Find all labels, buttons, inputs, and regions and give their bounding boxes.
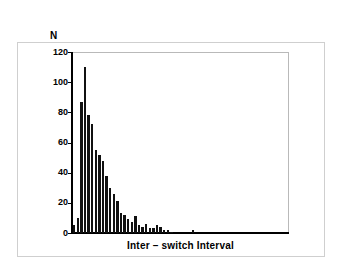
bar [192, 230, 194, 233]
y-tick-mark [68, 143, 72, 144]
y-axis-tick-labels: 020406080100120 [20, 0, 68, 271]
bar [84, 67, 86, 233]
bar [167, 230, 169, 233]
bar [163, 230, 165, 233]
bar [134, 216, 136, 233]
y-tick-label: 60 [58, 138, 68, 147]
bar [109, 188, 111, 233]
y-tick-label: 100 [53, 78, 68, 87]
bar [145, 224, 147, 233]
y-tick-label: 40 [58, 168, 68, 177]
bar [105, 176, 107, 233]
bar [152, 228, 154, 233]
x-axis-title: Inter – switch Interval [72, 240, 289, 251]
y-tick-label: 20 [58, 198, 68, 207]
figure: N 020406080100120 Inter – switch Interva… [0, 0, 348, 271]
y-tick-mark [68, 82, 72, 83]
bar-series [73, 52, 289, 233]
bar [95, 150, 97, 233]
bar [141, 227, 143, 233]
bar [87, 115, 89, 233]
y-tick-mark [68, 52, 72, 53]
y-tick-label: 80 [58, 108, 68, 117]
bar [120, 213, 122, 233]
bar [73, 225, 75, 233]
bar [113, 194, 115, 233]
bar [116, 201, 118, 233]
bar [149, 228, 151, 233]
y-tick-mark [68, 233, 72, 234]
bar [127, 219, 129, 233]
y-tick-mark [68, 112, 72, 113]
bar [170, 232, 172, 234]
bar [102, 161, 104, 233]
y-tick-mark [68, 203, 72, 204]
bar [98, 155, 100, 233]
bar [131, 222, 133, 233]
y-tick-mark [68, 173, 72, 174]
bar [156, 225, 158, 233]
bar [77, 218, 79, 233]
bar [159, 227, 161, 233]
bar [91, 124, 93, 233]
y-tick-label: 120 [53, 48, 68, 57]
bar [123, 215, 125, 233]
bar [138, 225, 140, 233]
bar [80, 102, 82, 233]
